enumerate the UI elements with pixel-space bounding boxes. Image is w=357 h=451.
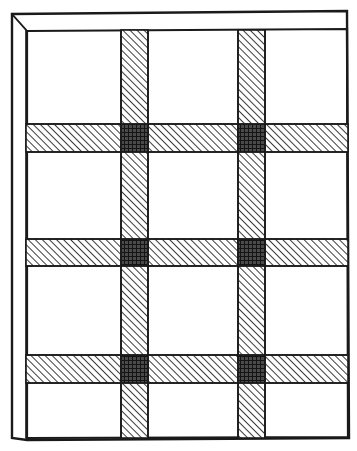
node-r2-c2 xyxy=(238,239,265,266)
diagram-canvas xyxy=(0,0,357,451)
node-r2-c1 xyxy=(121,239,148,266)
grid-framing-drawing xyxy=(0,0,357,451)
node-r3-c1 xyxy=(121,355,148,383)
node-r3-c2 xyxy=(238,355,265,383)
node-r1-c1 xyxy=(121,124,148,152)
horizontal-beam-1 xyxy=(26,124,348,152)
node-r1-c2 xyxy=(238,124,265,152)
horizontal-beam-2 xyxy=(26,239,348,266)
horizontal-beam-3 xyxy=(26,355,348,383)
